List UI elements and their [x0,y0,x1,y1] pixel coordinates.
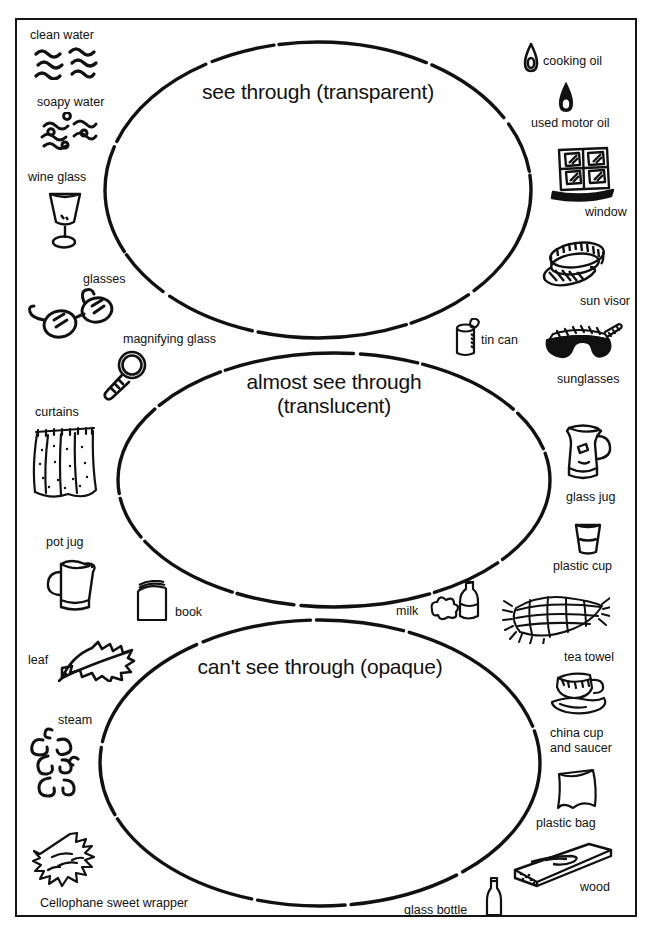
pot-jug-icon [41,552,101,614]
worksheet-page: see through (transparent) almost see thr… [0,0,653,930]
tin-can-icon [452,318,480,358]
zone-title-translucent: almost see through (translucent) [164,370,504,418]
label-magnifying-glass: magnifying glass [123,332,216,347]
eyeglasses-icon [22,286,122,342]
label-soapy-water: soapy water [37,95,104,110]
label-book: book [175,605,202,620]
milk-bottle-spill-icon [428,580,486,622]
label-tin-can: tin can [481,333,518,348]
label-plastic-cup: plastic cup [553,559,612,574]
label-cooking-oil: cooking oil [543,54,602,69]
label-plastic-bag: plastic bag [536,816,596,831]
bubbly-wavy-lines-icon [38,112,110,150]
plastic-bag-icon [553,766,601,812]
label-leaf: leaf [28,653,48,668]
label-clean-water: clean water [30,28,94,43]
label-china-cup-and-saucer: china cup and saucer [550,726,612,756]
book-icon [133,580,171,622]
plastic-cup-icon [572,519,604,557]
zone-title-opaque: can't see through (opaque) [140,655,500,679]
label-sunglasses: sunglasses [557,372,620,387]
glass-jug-icon [557,422,617,486]
oil-drop-outline-icon [521,42,541,74]
label-glass-bottle: glass bottle [404,903,467,918]
wine-glass-icon [42,188,88,250]
label-wine-glass: wine glass [28,170,86,185]
label-cellophane-sweet-wrapper: Cellophane sweet wrapper [40,896,188,911]
window-icon [549,146,617,202]
leaf-icon [58,640,136,682]
cup-and-saucer-icon [548,668,612,718]
label-tea-towel: tea towel [564,650,614,665]
wood-plank-icon [511,840,615,888]
sunglasses-icon [543,320,623,364]
wavy-lines-icon [32,46,110,80]
glass-bottle-icon [484,876,504,918]
magnifying-glass-icon [98,348,154,402]
tea-towel-icon [500,592,610,644]
zone-title-transparent: see through (transparent) [138,80,498,104]
label-glasses: glasses [83,272,125,287]
label-sun-visor: sun visor [580,294,630,309]
label-used-motor-oil: used motor oil [531,116,610,131]
page-border [15,18,637,917]
label-curtains: curtains [35,405,79,420]
oil-drop-filled-icon [556,82,576,114]
curtains-icon [30,422,100,500]
sun-visor-icon [535,240,611,290]
steam-icon [28,726,94,802]
sweet-wrapper-icon [28,830,132,888]
label-milk: milk [396,604,418,619]
label-pot-jug: pot jug [46,535,84,550]
label-glass-jug: glass jug [566,490,615,505]
label-window: window [585,205,627,220]
